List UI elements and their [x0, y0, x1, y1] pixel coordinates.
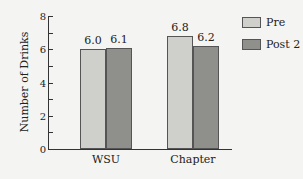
- y-tick: [48, 132, 53, 133]
- y-tick: [48, 16, 53, 17]
- y-tick: [48, 49, 53, 50]
- bar-chapter-pre: [167, 36, 193, 149]
- y-axis-label: Number of Drinks: [18, 32, 31, 133]
- bar-chapter-post-2: [193, 46, 219, 149]
- legend-label-pre: Pre: [266, 16, 285, 29]
- legend-label-post-2: Post 2: [266, 38, 300, 51]
- bar-wsu-post-2: [106, 48, 132, 149]
- y-tick: [48, 83, 53, 84]
- bar-value-label: 6.1: [106, 33, 132, 46]
- y-tick: [48, 66, 53, 67]
- y-tick: [48, 149, 53, 150]
- y-tick-label: 6: [34, 44, 46, 55]
- legend-swatch-pre: [242, 17, 261, 28]
- y-tick: [48, 33, 53, 34]
- y-tick-label: 0: [34, 144, 46, 155]
- legend-item-post-2: Post 2: [242, 38, 300, 51]
- y-tick: [48, 116, 53, 117]
- legend-item-pre: Pre: [242, 16, 285, 29]
- bar-value-label: 6.8: [167, 21, 193, 34]
- y-tick-label: 4: [34, 78, 46, 89]
- x-axis-line: [48, 149, 232, 150]
- y-tick-label: 2: [34, 111, 46, 122]
- legend-swatch-post-2: [242, 39, 261, 50]
- category-label-chapter: Chapter: [153, 153, 233, 166]
- bar-chart: Number of Drinks 02468 6.06.16.86.2 WSU …: [0, 0, 303, 179]
- bar-wsu-pre: [80, 49, 106, 149]
- bar-value-label: 6.2: [193, 31, 219, 44]
- y-tick: [48, 99, 53, 100]
- bar-value-label: 6.0: [80, 34, 106, 47]
- category-label-wsu: WSU: [66, 153, 146, 166]
- y-tick-label: 8: [34, 11, 46, 22]
